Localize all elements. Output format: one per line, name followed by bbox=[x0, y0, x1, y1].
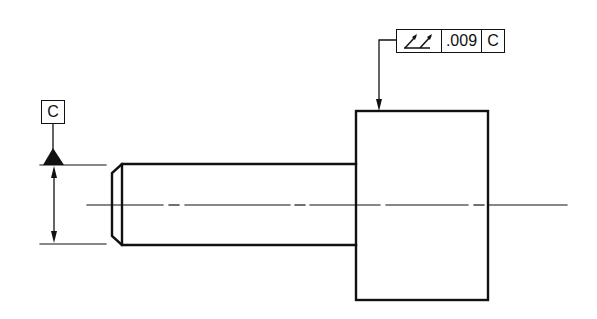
arrow-down-icon bbox=[51, 231, 57, 243]
datum-label: C bbox=[47, 103, 59, 121]
feature-control-frame: .009 C bbox=[396, 29, 505, 53]
tolerance-cell: .009 bbox=[442, 30, 482, 52]
datum-reference-cell: C bbox=[482, 30, 504, 52]
drawing-canvas bbox=[0, 0, 597, 319]
geometric-characteristic-cell bbox=[397, 30, 442, 52]
datum-feature-symbol: C bbox=[41, 100, 65, 124]
leader-arrow-icon bbox=[376, 99, 382, 111]
total-runout-icon bbox=[401, 32, 437, 50]
arrow-up-icon bbox=[51, 166, 57, 178]
datum-triangle-icon bbox=[43, 148, 64, 165]
leader-line bbox=[379, 40, 396, 104]
